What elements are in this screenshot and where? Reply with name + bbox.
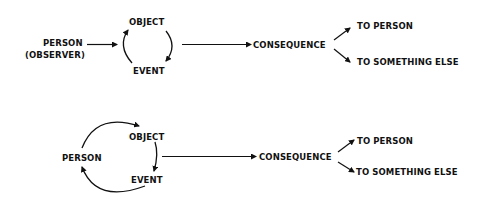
- event-to-object-arc-arrow: [123, 30, 132, 63]
- bottom-person-label: PERSON: [62, 153, 102, 163]
- consequence-to-person-arrow: [334, 28, 350, 40]
- top-event-label: EVENT: [133, 66, 165, 76]
- bottom-to-something-else-label: TO SOMETHING ELSE: [356, 167, 458, 177]
- top-object-label: OBJECT: [129, 17, 164, 27]
- object-to-event-arc-arrow: [166, 31, 172, 61]
- top-person-label: PERSON: [43, 38, 83, 48]
- consequence-to-something-else-arrow: [338, 162, 354, 172]
- bottom-consequence-label: CONSEQUENCE: [259, 152, 332, 162]
- bottom-to-person-label: TO PERSON: [357, 136, 413, 146]
- consequence-to-person-arrow: [338, 140, 354, 152]
- object-to-event-arrow: [154, 142, 157, 171]
- top-to-something-else-label: TO SOMETHING ELSE: [357, 57, 459, 67]
- top-observer-label: (OBSERVER): [25, 50, 85, 60]
- bottom-event-label: EVENT: [131, 175, 163, 185]
- bottom-object-label: OBJECT: [129, 132, 164, 142]
- top-consequence-label: CONSEQUENCE: [253, 40, 326, 50]
- top-to-person-label: TO PERSON: [357, 21, 413, 31]
- consequence-to-something-else-arrow: [334, 49, 350, 62]
